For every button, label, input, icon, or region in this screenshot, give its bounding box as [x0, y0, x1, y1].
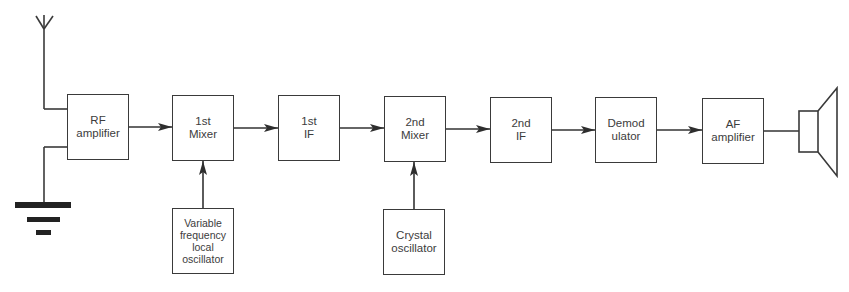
first-mixer-block: 1st Mixer	[172, 95, 234, 161]
block-label: 2nd	[405, 116, 424, 129]
block-label: ulator	[612, 130, 641, 143]
variable-local-oscillator-block: Variable frequency local oscillator	[172, 208, 234, 274]
block-label: local	[192, 241, 214, 253]
af-amplifier-block: AF amplifier	[702, 98, 764, 164]
block-label: 1st	[195, 115, 210, 128]
block-label: AF	[726, 118, 741, 131]
block-label: IF	[304, 128, 314, 141]
block-label: frequency	[180, 229, 226, 241]
block-label: amplifier	[76, 127, 119, 140]
first-if-block: 1st IF	[278, 95, 340, 161]
block-label: Variable	[184, 217, 222, 229]
rf-amplifier-block: RF amplifier	[67, 94, 129, 160]
block-label: 2nd	[511, 117, 530, 130]
block-label: RF	[90, 114, 105, 127]
speaker-icon	[799, 88, 837, 176]
demodulator-block: Demod ulator	[595, 97, 657, 163]
second-if-block: 2nd IF	[490, 97, 552, 163]
second-mixer-block: 2nd Mixer	[384, 96, 446, 162]
crystal-oscillator-block: Crystal oscillator	[383, 209, 445, 275]
block-label: 1st	[301, 115, 316, 128]
ground-icon	[15, 147, 71, 235]
block-label: oscillator	[182, 253, 223, 265]
block-label: Crystal	[396, 229, 432, 242]
block-label: amplifier	[711, 131, 754, 144]
block-label: Mixer	[189, 128, 217, 141]
block-label: oscillator	[391, 242, 436, 255]
antenna-icon	[36, 15, 67, 109]
block-label: Mixer	[401, 129, 429, 142]
block-label: IF	[516, 130, 526, 143]
block-label: Demod	[607, 117, 644, 130]
